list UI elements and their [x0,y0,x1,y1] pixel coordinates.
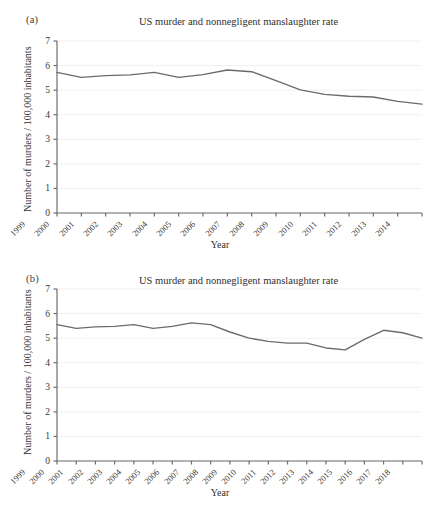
data-series-line [57,323,422,350]
y-tick-label: 3 [36,133,50,144]
y-tick-label: 4 [36,109,50,120]
y-tick-label: 1 [36,182,50,193]
y-tick-label: 5 [36,332,50,343]
y-tick-label: 6 [36,308,50,319]
y-tick-label: 3 [36,381,50,392]
chart-panel-a: (a) US murder and nonnegligent manslaugh… [0,0,443,258]
chart-panel-b: (b) US murder and nonnegligent manslaugh… [0,259,443,517]
y-tick-label: 1 [36,430,50,441]
y-tick-label: 2 [36,158,50,169]
y-tick-label: 6 [36,60,50,71]
y-tick-label: 7 [36,35,50,46]
data-series-line [57,70,422,104]
y-tick-label: 2 [36,406,50,417]
y-tick-label: 5 [36,84,50,95]
y-tick-label: 0 [36,455,50,466]
y-tick-label: 0 [36,207,50,218]
y-tick-label: 7 [36,283,50,294]
y-tick-label: 4 [36,357,50,368]
plot-area-a [0,0,443,258]
